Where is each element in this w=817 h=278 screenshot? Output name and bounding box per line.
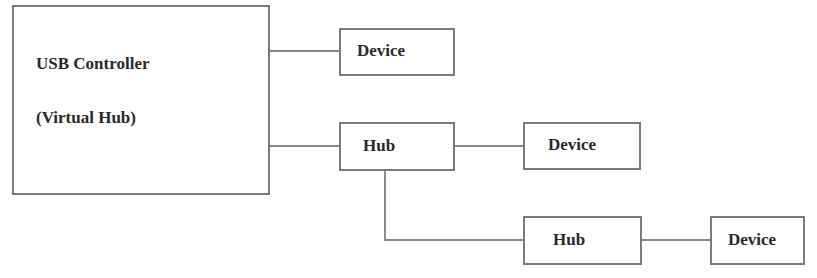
device2-box: Device [523, 122, 641, 170]
device3-label: Device [728, 230, 776, 250]
connector-hub1-device2 [455, 145, 524, 147]
device1-label: Device [357, 41, 405, 61]
hub1-label: Hub [363, 136, 395, 156]
hub2-box: Hub [523, 216, 642, 265]
device1-box: Device [339, 28, 455, 76]
device3-box: Device [710, 216, 805, 265]
connector-hub2-device3 [642, 239, 711, 241]
device2-label: Device [548, 135, 596, 155]
hub2-label: Hub [553, 230, 585, 250]
connector-hub1-hub2 [384, 239, 524, 241]
connector-controller-hub1 [270, 145, 340, 147]
connector-hub1-down [384, 171, 386, 241]
virtual-hub-label: (Virtual Hub) [36, 108, 136, 128]
hub1-box: Hub [339, 122, 455, 171]
usb-controller-box: USB Controller (Virtual Hub) [12, 5, 270, 195]
connector-controller-device1 [270, 50, 340, 52]
usb-controller-label: USB Controller [36, 54, 150, 74]
